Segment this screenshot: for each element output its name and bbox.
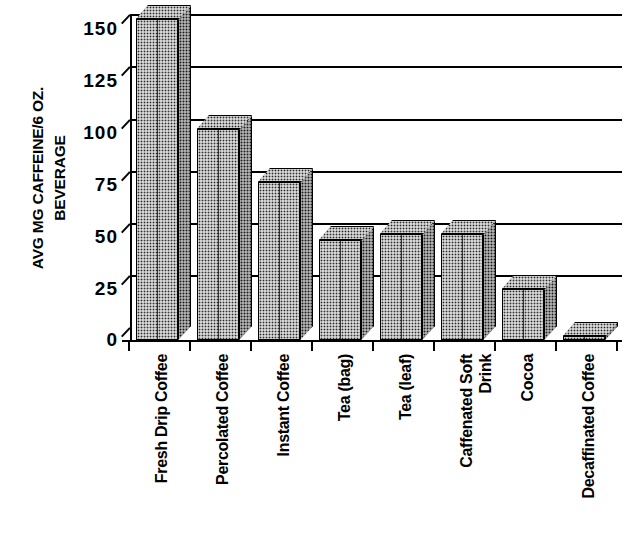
y-tick-label-100: 100 <box>60 123 118 142</box>
x-axis-tick-7 <box>555 340 557 351</box>
x-axis-tick-0 <box>128 340 130 351</box>
y-tick-label-150: 150 <box>60 19 118 38</box>
bar-front-face <box>380 234 422 340</box>
x-label-tea-leaf: Tea (leaf) <box>396 354 452 534</box>
x-axis-tick-3 <box>311 340 313 351</box>
bar-front-face <box>197 129 239 340</box>
x-axis-ticks <box>130 340 622 354</box>
bar-side-face <box>422 221 435 340</box>
x-label-cocoa: Cocoa <box>518 354 574 534</box>
gridline-150 <box>130 14 622 16</box>
bar-front-face <box>502 289 544 340</box>
x-axis-tick-4 <box>372 340 374 351</box>
y-tick-label-50: 50 <box>60 227 118 246</box>
y-tick-label-125: 125 <box>60 71 118 90</box>
x-axis-tick-6 <box>494 340 496 351</box>
x-axis-tick-1 <box>189 340 191 351</box>
bar-front-face <box>319 240 361 340</box>
x-axis-tick-2 <box>250 340 252 351</box>
bar-side-face <box>239 116 252 340</box>
plot-area <box>130 14 622 340</box>
x-label-fresh-drip-coffee: Fresh Drip Coffee <box>152 354 208 534</box>
x-label-decaffinated-coffee: Decaffinated Coffee <box>579 354 627 534</box>
bar-side-face <box>483 221 496 340</box>
x-label-tea-bag: Tea (bag) <box>335 354 391 534</box>
bar-front-face <box>441 234 483 340</box>
gridline-125 <box>130 66 622 68</box>
y-tick-label-0: 0 <box>60 330 118 349</box>
x-label-instant-coffee: Instant Coffee <box>274 354 330 534</box>
bar-side-face <box>300 169 313 340</box>
bar-front-face <box>136 19 178 340</box>
x-axis-category-labels: Fresh Drip Coffee Percolated Coffee Inst… <box>130 354 622 544</box>
bar-front-face <box>258 182 300 340</box>
x-axis-tick-8 <box>616 340 618 351</box>
y-axis-tick-labels: 150 125 100 75 50 25 0 <box>56 0 118 547</box>
y-tick-label-25: 25 <box>60 279 118 298</box>
gridline-100 <box>130 119 622 121</box>
bar-side-face <box>178 6 191 340</box>
x-axis-tick-5 <box>433 340 435 351</box>
bar-side-face <box>361 227 374 340</box>
x-label-caffenated-soft-drink: Caffenated Soft Drink <box>457 354 513 534</box>
y-tick-label-75: 75 <box>60 175 118 194</box>
x-label-percolated-coffee: Percolated Coffee <box>213 354 269 534</box>
caffeine-bar-chart: AVG MG CAFFEINE/6 OZ. BEVERAGE 150 125 1… <box>0 0 627 547</box>
